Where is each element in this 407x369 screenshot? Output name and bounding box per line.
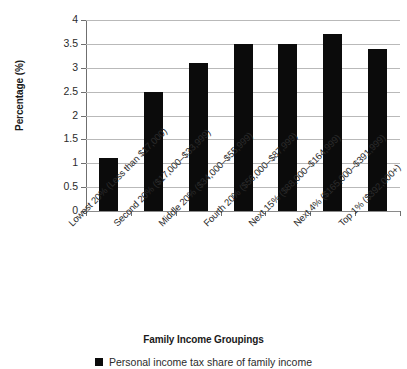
x-axis-category-label: Lowest 20% (Less than $17,000) [67, 221, 75, 229]
x-axis-tick [400, 211, 401, 216]
y-axis-tick-label: 4 [38, 14, 78, 25]
y-axis-tick-label: 2 [38, 110, 78, 121]
x-axis-title: Family Income Groupings [0, 334, 407, 345]
y-axis-tick [81, 20, 86, 21]
y-axis-tick-label: 3.5 [38, 38, 78, 49]
y-axis-tick [81, 44, 86, 45]
y-axis-tick [81, 163, 86, 164]
y-axis-tick [81, 187, 86, 188]
y-axis-title: Percentage (%) [14, 46, 25, 146]
legend-label: Personal income tax share of family inco… [109, 357, 312, 368]
y-axis-tick [81, 68, 86, 69]
x-axis-category-label: Second 20% ($17,000–$33,999) [111, 221, 119, 229]
chart-legend: Personal income tax share of family inco… [0, 357, 407, 368]
y-axis-tick-label: 0.5 [38, 181, 78, 192]
bar-chart: Percentage (%) 43.532.521.510.50 Lowest … [0, 0, 407, 369]
x-axis-category-label: Next 4% ($165,000–$391,999) [291, 221, 299, 229]
x-axis-category-label: Middle 20% ($34,000–$55,999) [156, 221, 164, 229]
x-axis-category-label: Top 1% ($392,000+) [336, 221, 344, 229]
x-axis-category-label: Next 15% ($88,000–$164,999) [246, 221, 254, 229]
y-axis-tick-label: 1.5 [38, 133, 78, 144]
legend-swatch-icon [95, 358, 103, 366]
y-axis-tick-label: 1 [38, 157, 78, 168]
x-axis-category-label: Fourth 20% ($56,000–$87,999) [201, 221, 209, 229]
y-axis-tick-label: 3 [38, 62, 78, 73]
y-axis-tick [81, 92, 86, 93]
y-axis-tick-label: 2.5 [38, 86, 78, 97]
y-axis-tick [81, 116, 86, 117]
gridline [86, 20, 400, 21]
y-axis-tick [81, 139, 86, 140]
